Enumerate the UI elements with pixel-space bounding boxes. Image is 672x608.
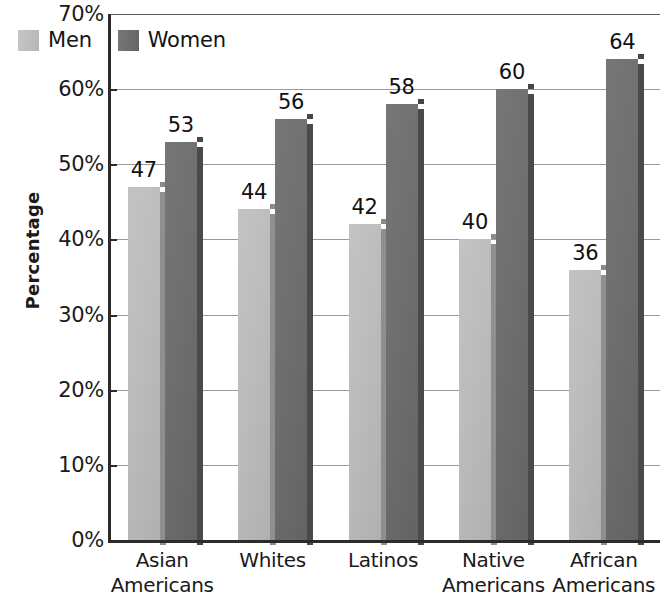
legend-swatch-icon	[18, 30, 39, 51]
bar-value-label: 53	[156, 113, 206, 137]
bar-value-label: 58	[377, 75, 427, 99]
y-tick-label: 30%	[8, 303, 104, 327]
bar-body	[165, 142, 197, 540]
y-tick-label: 60%	[8, 77, 104, 101]
bar-top-face	[418, 99, 424, 104]
x-axis-category-labels: AsianAmericansWhitesLatinosNativeAmerica…	[108, 548, 660, 608]
bars-layer: 47534456425840603664	[108, 14, 660, 540]
bar-value-label: 44	[229, 180, 279, 204]
bar-body	[496, 89, 528, 540]
bar-group: 3664	[569, 14, 644, 540]
bar[interactable]: 64	[606, 59, 638, 540]
legend-label: Men	[48, 28, 92, 52]
bar-body	[238, 209, 270, 540]
bar-group: 4258	[349, 14, 424, 540]
y-tick-label: 50%	[8, 152, 104, 176]
legend-item[interactable]: Women	[118, 28, 226, 52]
bar-group: 4060	[459, 14, 534, 540]
bar[interactable]: 36	[569, 270, 601, 541]
y-tick-label: 70%	[8, 2, 104, 26]
bar-group: 4456	[238, 14, 313, 540]
x-category-label: Whites	[217, 548, 327, 573]
bar-value-label: 60	[487, 60, 537, 84]
x-category-label: AfricanAmericans	[549, 548, 659, 598]
bar-body	[386, 104, 418, 540]
bar-value-label: 64	[597, 30, 647, 54]
bar[interactable]: 44	[238, 209, 270, 540]
bar-body	[349, 224, 381, 540]
bar-chart: Percentage 0%10%20%30%40%50%60%70% 47534…	[0, 0, 672, 608]
y-axis-tick-labels: 0%10%20%30%40%50%60%70%	[0, 0, 104, 608]
x-category-label: Latinos	[328, 548, 438, 573]
y-axis-line	[108, 14, 111, 540]
bar-group: 4753	[128, 14, 203, 540]
bar-body	[128, 187, 160, 540]
bar-body	[569, 270, 601, 541]
plot-area: 47534456425840603664	[108, 14, 660, 540]
bar-top-face	[528, 84, 534, 89]
legend-item[interactable]: Men	[18, 28, 92, 52]
bar[interactable]: 56	[275, 119, 307, 540]
bar[interactable]: 60	[496, 89, 528, 540]
y-tick-label: 40%	[8, 227, 104, 251]
bar-body	[606, 59, 638, 540]
bar-value-label: 56	[266, 90, 316, 114]
bar-value-label: 42	[340, 195, 390, 219]
bar-side-face	[418, 109, 424, 545]
bar-side-face	[197, 147, 203, 545]
chart-legend: MenWomen	[18, 28, 226, 52]
legend-label: Women	[148, 28, 226, 52]
bar[interactable]: 53	[165, 142, 197, 540]
bar-value-label: 36	[560, 241, 610, 265]
bar-side-face	[528, 94, 534, 545]
y-tick-label: 10%	[8, 453, 104, 477]
bar-body	[275, 119, 307, 540]
y-tick-label: 20%	[8, 378, 104, 402]
bar[interactable]: 47	[128, 187, 160, 540]
bar[interactable]: 42	[349, 224, 381, 540]
bar-body	[459, 239, 491, 540]
x-category-label: AsianAmericans	[107, 548, 217, 598]
bar-side-face	[638, 64, 644, 545]
bar-top-face	[307, 114, 313, 119]
bar-side-face	[307, 124, 313, 545]
legend-swatch-icon	[118, 30, 139, 51]
bar[interactable]: 58	[386, 104, 418, 540]
bar-top-face	[638, 54, 644, 59]
bar-top-face	[197, 137, 203, 142]
x-axis-line	[108, 540, 660, 543]
bar-value-label: 40	[450, 210, 500, 234]
y-tick-label: 0%	[8, 528, 104, 552]
bar-value-label: 47	[119, 158, 169, 182]
x-category-label: NativeAmericans	[438, 548, 548, 598]
bar[interactable]: 40	[459, 239, 491, 540]
